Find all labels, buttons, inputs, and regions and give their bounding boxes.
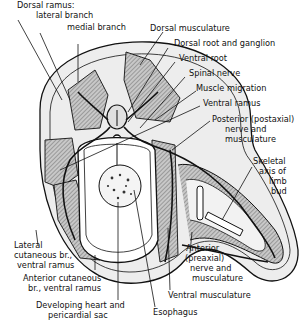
developing-heart [99, 165, 141, 207]
label-anterior-pre-4: musculature [192, 274, 243, 284]
label-spinal-nerve: Spinal nerve [189, 69, 240, 79]
label-posterior-3: musculature [225, 135, 276, 145]
diagram-canvas: Dorsal ramus: lateral branch medial bran… [0, 0, 302, 329]
label-anterior-cut-2: br., ventral ramus [28, 284, 101, 294]
label-ventral-ramus: Ventral ramus [203, 99, 260, 109]
label-medial-branch: medial branch [67, 23, 126, 33]
label-ventral-musculature: Ventral musculature [168, 291, 251, 301]
label-dorsal-musculature: Dorsal musculature [150, 24, 230, 34]
label-lateral-branch: lateral branch [36, 11, 93, 21]
label-dorsal-root-ganglion: Dorsal root and ganglion [174, 39, 275, 49]
label-skeletal-4: bud [271, 187, 287, 197]
label-muscle-migration: Muscle migration [196, 84, 266, 94]
label-lateral-cut-3: ventral ramus [17, 261, 74, 271]
label-esophagus: Esophagus [153, 308, 198, 318]
label-heart-2: pericardial sac [48, 311, 108, 321]
label-ventral-root: Ventral root [179, 54, 227, 64]
